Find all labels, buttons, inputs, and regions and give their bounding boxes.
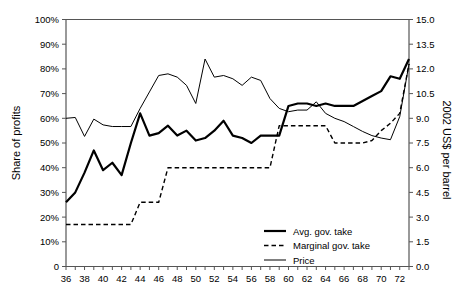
y-axis-left-tick-label: 60%: [40, 113, 60, 124]
x-axis-tick-label: 64: [320, 273, 331, 284]
y-axis-right-tick-label: 4.5: [416, 187, 429, 198]
y-axis-left-tick-label: 20%: [40, 212, 60, 223]
x-axis-tick-label: 56: [246, 273, 257, 284]
x-axis-tick-label: 48: [172, 273, 183, 284]
y-axis-left-tick-label: 100%: [35, 14, 60, 25]
x-axis-tick-label: 44: [135, 273, 146, 284]
y-axis-right-tick-label: 12.0: [416, 63, 435, 74]
x-axis-tick-label: 38: [79, 273, 90, 284]
x-axis-tick-label: 50: [190, 273, 201, 284]
x-axis-tick-label: 36: [61, 273, 72, 284]
y-axis-right-tick-label: 10.5: [416, 88, 435, 99]
x-axis-tick-label: 40: [98, 273, 109, 284]
y-axis-left-tick-label: 90%: [40, 39, 60, 50]
x-axis-tick-label: 54: [228, 273, 239, 284]
legend-label-2: Price: [293, 255, 315, 266]
y-axis-right-tick-label: 9.0: [416, 113, 429, 124]
y-axis-right-tick-label: 6.0: [416, 162, 429, 173]
y-axis-right-tick-label: 7.5: [416, 137, 429, 148]
y-axis-right-tick-label: 3.0: [416, 212, 429, 223]
x-axis-tick-label: 60: [283, 273, 294, 284]
x-axis-tick-label: 68: [357, 273, 368, 284]
y-axis-left-tick-label: 70%: [40, 88, 60, 99]
y-axis-right-title: 2002 US$ per barrel: [441, 100, 453, 199]
y-axis-right-tick-label: 15.0: [416, 14, 435, 25]
x-axis-tick-label: 66: [339, 273, 350, 284]
x-axis-tick-label: 42: [116, 273, 127, 284]
chart-container: 010%20%30%40%50%60%70%80%90%100% 0.01.53…: [0, 0, 464, 303]
y-axis-left-tick-label: 40%: [40, 162, 60, 173]
y-axis-left-tick-label: 80%: [40, 63, 60, 74]
y-axis-right-tick-label: 13.5: [416, 39, 435, 50]
x-axis-tick-label: 62: [302, 273, 313, 284]
x-axis-tick-label: 72: [394, 273, 405, 284]
x-axis-tick-label: 58: [265, 273, 276, 284]
x-axis-tick-label: 52: [209, 273, 220, 284]
chart-background: [0, 0, 464, 303]
y-axis-left-tick-label: 10%: [40, 236, 60, 247]
y-axis-left-title: Share of profits: [10, 105, 22, 180]
y-axis-right-tick-label: 0.0: [416, 261, 429, 272]
legend-label-1: Marginal gov. take: [293, 240, 370, 251]
legend-label-0: Avg. gov. take: [293, 226, 352, 237]
gov-take-and-price-line-chart: 010%20%30%40%50%60%70%80%90%100% 0.01.53…: [0, 0, 464, 303]
y-axis-left-tick-label: 30%: [40, 187, 60, 198]
x-axis-tick-label: 46: [153, 273, 164, 284]
x-axis-tick-label: 70: [376, 273, 387, 284]
y-axis-left-tick-label: 50%: [40, 137, 60, 148]
y-axis-right-tick-label: 1.5: [416, 236, 429, 247]
y-axis-left-tick-label: 0: [54, 261, 59, 272]
